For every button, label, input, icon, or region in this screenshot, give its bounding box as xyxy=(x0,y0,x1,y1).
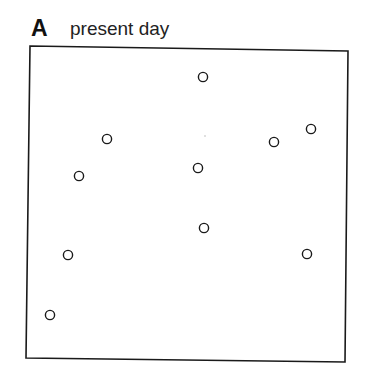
data-point-marker xyxy=(45,310,54,319)
data-point-marker xyxy=(198,72,207,81)
data-point-marker xyxy=(63,250,72,259)
data-point-marker xyxy=(102,134,111,143)
data-point-marker xyxy=(74,171,83,180)
plot-frame xyxy=(26,46,348,362)
data-points xyxy=(45,72,315,319)
data-point-marker xyxy=(269,137,278,146)
data-point-marker xyxy=(199,223,208,232)
data-point-marker xyxy=(302,249,311,258)
data-point-marker xyxy=(306,124,315,133)
faint-center-dot xyxy=(204,135,205,136)
data-point-marker xyxy=(193,163,202,172)
scatter-plot xyxy=(0,0,366,379)
